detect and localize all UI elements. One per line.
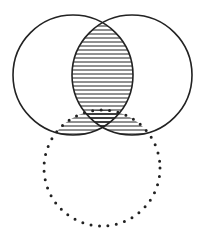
venn-diagram	[0, 0, 205, 240]
